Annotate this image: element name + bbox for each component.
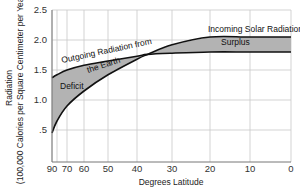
- x-tick-label: 60: [79, 163, 90, 174]
- svg-text:(100,000 Calories per Square C: (100,000 Calories per Square Centimeter …: [15, 0, 25, 184]
- deficit-label: Deficit: [60, 81, 84, 91]
- y-tick-label: 2.0: [34, 34, 47, 45]
- x-tick-label: 90: [47, 163, 58, 174]
- incoming-solar-label: Incoming Solar Radiation: [208, 24, 300, 34]
- svg-text:Radiation: Radiation: [4, 70, 14, 106]
- x-tick-label: 50: [103, 163, 114, 174]
- x-tick-labels: 90706050403020100: [47, 163, 294, 174]
- y-axis-title: Radiation: [4, 70, 14, 106]
- x-tick-label: 0: [288, 163, 293, 174]
- x-tick-label: 10: [245, 163, 256, 174]
- x-tick-label: 30: [167, 163, 178, 174]
- x-tick-label: 70: [62, 163, 73, 174]
- y-axis-subtitle: (100,000 Calories per Square Centimeter …: [15, 0, 25, 184]
- surplus-label: Surplus: [221, 37, 250, 47]
- x-tick-label: 40: [132, 163, 143, 174]
- y-tick-labels: .51.01.52.02.5: [34, 4, 47, 135]
- y-tick-label: .5: [39, 124, 47, 135]
- x-axis-title: Degrees Latitude: [139, 177, 204, 187]
- x-tick-label: 20: [205, 163, 216, 174]
- y-tick-label: 1.0: [34, 94, 47, 105]
- y-tick-label: 1.5: [34, 64, 47, 75]
- radiation-balance-chart: .51.01.52.02.5 90706050403020100 Degrees…: [0, 0, 300, 188]
- y-tick-label: 2.5: [34, 4, 47, 15]
